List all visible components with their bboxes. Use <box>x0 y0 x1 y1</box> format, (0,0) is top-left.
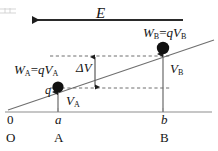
work-a-subscript: A <box>25 69 31 78</box>
axis-point-b: B <box>160 131 169 144</box>
potential-b-label: VB <box>170 62 183 75</box>
axis-tick-b: b <box>161 113 168 126</box>
work-a-label: WA=qVA <box>14 63 58 76</box>
work-b-label: WB=qVB <box>143 26 186 39</box>
charge-a <box>52 81 63 92</box>
axis-point-origin: O <box>6 131 15 144</box>
potential-b-subscript: B <box>178 68 183 77</box>
potential-b-symbol: V <box>170 61 178 76</box>
work-a-expression: qV <box>38 62 52 77</box>
axis-point-a: A <box>54 131 63 144</box>
charge-label-q: q <box>45 84 51 96</box>
potential-a-subscript: A <box>74 100 80 109</box>
charge-b <box>157 42 169 54</box>
potential-a-symbol: V <box>66 93 74 108</box>
delta-v-label: ΔV <box>76 61 92 74</box>
axis-tick-a: a <box>55 113 62 126</box>
work-b-expression-subscript: B <box>181 32 186 41</box>
work-a-expression-subscript: A <box>52 69 58 78</box>
field-label-E: E <box>96 6 105 21</box>
work-a-symbol: W <box>14 62 25 77</box>
axis-tick-origin: 0 <box>7 113 14 126</box>
work-b-subscript: B <box>154 32 159 41</box>
work-b-expression: qV <box>167 25 181 40</box>
work-b-symbol: W <box>143 25 154 40</box>
physics-figure: E WB=qVB WA=qVA ΔV VB VA q 0 a b O A B <box>0 0 218 151</box>
work-a-operator: = <box>31 62 38 77</box>
potential-a-label: VA <box>66 94 80 107</box>
work-b-operator: = <box>159 25 166 40</box>
